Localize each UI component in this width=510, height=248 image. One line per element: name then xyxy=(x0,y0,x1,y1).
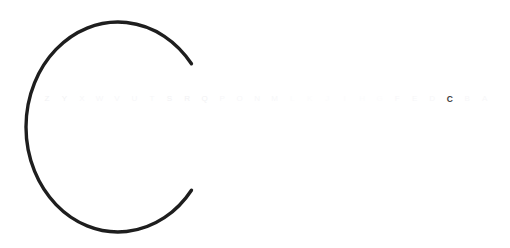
alphabet-letter-a[interactable]: A xyxy=(478,89,492,109)
alphabet-letter-f[interactable]: F xyxy=(390,89,404,109)
alphabet-letter-v[interactable]: V xyxy=(110,89,124,109)
alphabet-letter-w[interactable]: W xyxy=(93,89,107,109)
alphabet-letter-x[interactable]: X xyxy=(75,89,89,109)
alphabet-letter-n[interactable]: N xyxy=(250,89,264,109)
alphabet-letter-j[interactable]: J xyxy=(320,89,334,109)
letter-c-outline-path xyxy=(26,22,191,232)
alphabet-letter-r[interactable]: R xyxy=(180,89,194,109)
alphabet-letter-y[interactable]: Y xyxy=(58,89,72,109)
alphabet-letter-l[interactable]: L xyxy=(285,89,299,109)
alphabet-letter-g[interactable]: G xyxy=(373,89,387,109)
alphabet-letter-u[interactable]: U xyxy=(128,89,142,109)
alphabet-letter-h[interactable]: H xyxy=(355,89,369,109)
large-glyph-layer xyxy=(0,0,510,248)
alphabet-letter-s[interactable]: S xyxy=(163,89,177,109)
alphabet-letter-o[interactable]: O xyxy=(233,89,247,109)
alphabet-letter-e[interactable]: E xyxy=(408,89,422,109)
alphabet-letter-b[interactable]: B xyxy=(460,89,474,109)
letter-c-glyph-icon xyxy=(0,0,510,248)
alphabet-letter-d[interactable]: D xyxy=(425,89,439,109)
alphabet-letter-p[interactable]: P xyxy=(215,89,229,109)
alphabet-letter-c[interactable]: C xyxy=(443,89,457,109)
alphabet-letter-q[interactable]: Q xyxy=(198,89,212,109)
alphabet-letter-t[interactable]: T xyxy=(145,89,159,109)
canvas-root: ZYXWVUTSRQPONMLKJIHGFEDCBA xyxy=(0,0,510,248)
alphabet-letter-i[interactable]: I xyxy=(338,89,352,109)
alphabet-strip[interactable]: ZYXWVUTSRQPONMLKJIHGFEDCBA xyxy=(40,89,492,109)
alphabet-letter-z[interactable]: Z xyxy=(40,89,54,109)
alphabet-letter-m[interactable]: M xyxy=(268,89,282,109)
alphabet-letter-k[interactable]: K xyxy=(303,89,317,109)
